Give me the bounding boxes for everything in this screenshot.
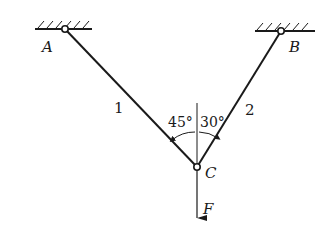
label-joint-c: C bbox=[205, 164, 217, 182]
member-2 bbox=[197, 31, 281, 167]
angle-arc-45 bbox=[172, 132, 195, 140]
support-b bbox=[255, 23, 315, 31]
pin-a bbox=[62, 26, 68, 32]
pin-b bbox=[278, 28, 284, 34]
label-member-2: 2 bbox=[245, 101, 255, 119]
member-1 bbox=[65, 29, 197, 167]
label-angle-45: 45° bbox=[168, 114, 193, 130]
pin-c bbox=[194, 164, 200, 170]
truss-diagram: A B 1 2 45° 30° C F bbox=[0, 0, 325, 243]
label-a: A bbox=[40, 38, 53, 56]
label-load-f: F bbox=[202, 200, 214, 218]
label-b: B bbox=[288, 38, 300, 56]
label-angle-30: 30° bbox=[200, 114, 225, 130]
label-member-1: 1 bbox=[114, 99, 124, 117]
